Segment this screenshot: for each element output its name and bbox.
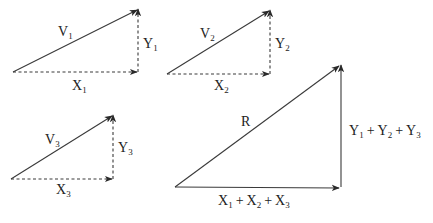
- resultant-vector-arrow: [175, 66, 339, 187]
- vector-v2-arrow: [167, 11, 269, 74]
- y1-label: Y1: [143, 36, 158, 53]
- y2-label: Y2: [275, 36, 290, 53]
- x2-label: X2: [214, 78, 229, 95]
- vector-triangle-v1: V1 Y1 X1: [13, 9, 158, 95]
- y-sum-label: Y1+Y2+Y3: [349, 123, 421, 140]
- vector-triangle-v3: V3 Y3 X3: [11, 115, 133, 199]
- x3-label: X3: [56, 182, 71, 199]
- vector-v3-arrow: [11, 116, 112, 179]
- vector-addition-diagram: V1 Y1 X1 V2 Y2 X2 V3 Y3 X3 R Y1+Y2+Y3 X1…: [0, 0, 433, 223]
- x-sum-label: X1+X2+X3: [218, 193, 290, 210]
- resultant-triangle: R Y1+Y2+Y3 X1+X2+X3: [175, 65, 421, 210]
- v2-label: V2: [200, 26, 215, 43]
- vector-v1-arrow: [13, 10, 137, 72]
- resultant-label: R: [241, 114, 251, 129]
- vector-triangle-v2: V2 Y2 X2: [167, 10, 290, 95]
- x-sum-component-arrow: [175, 187, 339, 188]
- y3-label: Y3: [118, 140, 133, 157]
- v1-label: V1: [58, 24, 73, 41]
- v3-label: V3: [45, 132, 60, 149]
- x1-label: X1: [72, 78, 87, 95]
